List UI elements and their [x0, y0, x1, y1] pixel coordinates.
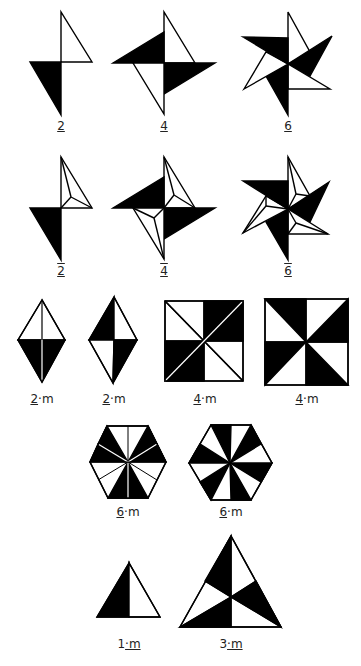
- figure-3m: [180, 536, 281, 627]
- figure-4bar: [113, 157, 215, 259]
- figure-6m-b: [189, 425, 272, 500]
- symmetry-diagram: [0, 0, 361, 666]
- label-6m-b: 6·m: [219, 505, 242, 519]
- label-2m-b: 2·m: [102, 392, 125, 406]
- figure-2m-a: [18, 300, 65, 382]
- label-1m: 1·m: [117, 637, 140, 651]
- figure-6fold: [243, 12, 332, 115]
- label-2: 2: [57, 119, 65, 133]
- label-2bar: 2: [57, 264, 65, 278]
- label-4m-a: 4·m: [193, 392, 216, 406]
- figure-4m-b: [265, 299, 348, 385]
- label-4m-b: 4·m: [295, 392, 318, 406]
- figure-6m-a: [90, 426, 166, 498]
- label-2m-a: 2·m: [30, 392, 53, 406]
- figure-4m-a: [165, 301, 243, 381]
- label-3m: 3·m: [219, 637, 242, 651]
- label-6: 6: [284, 119, 292, 133]
- label-4bar: 4: [160, 264, 168, 278]
- figure-6bar: [243, 157, 329, 260]
- figure-4fold: [113, 12, 215, 114]
- figure-2fold: [30, 12, 92, 115]
- label-4: 4: [160, 119, 168, 133]
- label-6bar: 6: [284, 264, 292, 278]
- figure-2m-b: [89, 297, 137, 383]
- figure-2bar: [30, 157, 92, 260]
- label-6m-a: 6·m: [116, 505, 139, 519]
- figure-1m: [97, 563, 160, 617]
